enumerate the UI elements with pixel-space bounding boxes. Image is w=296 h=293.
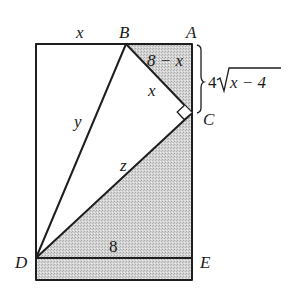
label-brace-radicand: x − 4 (229, 73, 267, 92)
label-point-b: B (119, 23, 130, 42)
label-point-c: C (203, 110, 215, 129)
label-point-e: E (199, 253, 211, 272)
label-ba: 8 − x (147, 51, 183, 70)
geometry-diagram: B A C D E x 8 − x x y z 8 4 x − 4 (0, 0, 296, 293)
label-brace-coefficient: 4 (208, 73, 217, 92)
label-point-d: D (14, 253, 28, 272)
label-dc: z (119, 156, 127, 175)
label-de: 8 (109, 237, 118, 256)
label-bd: y (72, 112, 82, 131)
brace-ac (197, 45, 204, 113)
label-top-left-x: x (75, 23, 84, 42)
label-point-a: A (185, 23, 197, 42)
shaded-bottom-strip (36, 258, 192, 280)
label-bc: x (147, 81, 156, 100)
